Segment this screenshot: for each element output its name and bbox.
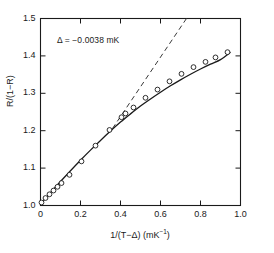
y-tick-label: 1.3	[12, 87, 36, 97]
y-tick-label: 1.5	[12, 13, 36, 23]
data-point-marker	[203, 59, 208, 64]
data-point-marker	[55, 184, 60, 189]
x-tick-label: 0.4	[109, 209, 133, 219]
data-point-marker	[225, 50, 230, 55]
data-point-marker	[43, 196, 48, 201]
x-axis-title: 1/(T−Δ) (mK−1)	[40, 228, 240, 240]
x-tick-label: 1.0	[229, 209, 253, 219]
data-point-marker	[167, 79, 172, 84]
data-point-marker	[213, 55, 218, 60]
data-point-marker	[51, 188, 56, 193]
y-tick-label: 1.2	[12, 125, 36, 135]
data-point-marker	[107, 128, 112, 133]
data-point-marker	[131, 105, 136, 110]
y-tick-label: 1.0	[12, 200, 36, 210]
y-tick-label: 1.4	[12, 50, 36, 60]
data-point-marker	[143, 95, 148, 100]
x-tick-label: 0	[29, 209, 53, 219]
data-point-marker	[39, 200, 44, 205]
x-axis-title-text: 1/(T−Δ) (mK−1)	[110, 230, 170, 240]
data-point-marker	[191, 65, 196, 70]
x-tick-label: 0.2	[69, 209, 93, 219]
x-tick-label: 0.8	[189, 209, 213, 219]
data-point-marker	[47, 192, 52, 197]
data-point-marker	[93, 143, 98, 148]
data-point-marker	[123, 111, 128, 116]
delta-annotation: Δ = −0.0038 mK	[57, 35, 119, 45]
data-point-marker	[79, 159, 84, 164]
data-point-marker	[155, 87, 160, 92]
data-point-marker	[119, 115, 124, 120]
figure-chart: R/(1−R) 1/(T−Δ) (mK−1) Δ = −0.0038 mK 00…	[0, 0, 274, 253]
y-tick-label: 1.1	[12, 162, 36, 172]
data-point-marker	[59, 181, 64, 186]
data-point-marker	[179, 71, 184, 76]
x-tick-label: 0.6	[149, 209, 173, 219]
fit-curve-line	[41, 52, 231, 204]
data-point-marker	[67, 172, 72, 177]
